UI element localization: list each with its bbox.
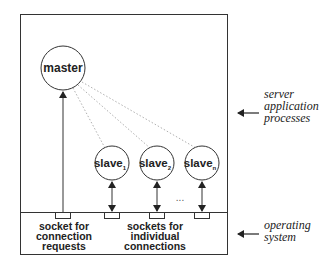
master-slave-links (73, 82, 196, 148)
slave-2-label: slave (139, 157, 168, 169)
server-application-box (21, 15, 228, 213)
svg-text:slaven: slaven (184, 157, 217, 171)
slave-1-label: slave (94, 157, 123, 169)
slave-n-subscript: n (213, 165, 217, 171)
socket-slave-1 (105, 213, 120, 219)
svg-text:slave1: slave1 (94, 157, 127, 171)
slave-n-label: slave (184, 157, 213, 169)
socket-slave-2 (150, 213, 165, 219)
slave-node-1: slave1 (94, 146, 129, 180)
slave-socket-arrows (112, 182, 202, 211)
master-label: master (43, 61, 83, 75)
ellipsis: ... (176, 192, 184, 203)
socket-slave-n (195, 213, 210, 219)
os-label-line2: system (264, 230, 296, 244)
socket-connection-label-line3: requests (42, 240, 86, 252)
svg-text:slave2: slave2 (139, 157, 172, 171)
diagram-canvas: master slave1 slave2 slaven ... s (0, 0, 335, 267)
server-label-line3: processes (263, 111, 311, 125)
sockets (56, 213, 210, 219)
slave-node-n: slaven (184, 146, 219, 180)
socket-connection-requests (56, 213, 71, 219)
slave-node-2: slave2 (139, 146, 174, 180)
master-node: master (41, 46, 85, 90)
sockets-individual-label-line3: connections (124, 240, 186, 252)
